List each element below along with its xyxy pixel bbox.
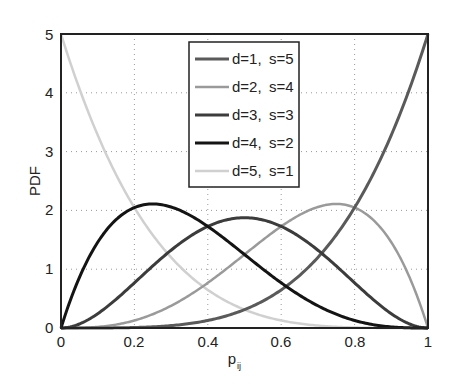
- y-tick-5: 5: [45, 26, 53, 43]
- x-axis-ticks: 0 0.2 0.4 0.6 0.8 1: [57, 333, 432, 350]
- curve-d-3-s-3: [61, 218, 428, 328]
- y-tick-3: 3: [45, 143, 53, 160]
- legend-label-s: s=5: [269, 50, 294, 67]
- x-tick-0.2: 0.2: [124, 333, 145, 350]
- legend-label-d: d=2,: [232, 78, 262, 95]
- legend-label-d: d=5,: [232, 162, 262, 179]
- y-tick-1: 1: [45, 260, 53, 277]
- x-tick-0.4: 0.4: [198, 333, 219, 350]
- legend-label-d: d=3,: [232, 106, 262, 123]
- legend-label-d: d=1,: [232, 50, 262, 67]
- x-tick-0.6: 0.6: [271, 333, 292, 350]
- x-axis-label-main: p: [228, 350, 236, 367]
- legend: d=1, s=5 d=2, s=4 d=3, s=3 d=4, s=2 d=5,…: [189, 42, 299, 187]
- y-axis-ticks: 0 1 2 3 4 5: [45, 26, 53, 336]
- x-tick-1: 1: [424, 333, 432, 350]
- x-axis-label: p ij: [228, 350, 241, 371]
- x-tick-0.8: 0.8: [345, 333, 366, 350]
- y-tick-0: 0: [45, 319, 53, 336]
- y-axis-label: PDF: [26, 166, 43, 196]
- y-tick-2: 2: [45, 201, 53, 218]
- legend-label-s: s=2: [269, 134, 294, 151]
- legend-label-d: d=4,: [232, 134, 262, 151]
- legend-label-s: s=4: [269, 78, 294, 95]
- legend-label-s: s=3: [269, 106, 294, 123]
- y-tick-4: 4: [45, 84, 53, 101]
- x-tick-0: 0: [57, 333, 65, 350]
- x-axis-label-subscript: ij: [237, 361, 241, 371]
- legend-label-s: s=1: [269, 162, 294, 179]
- pdf-chart: 0 1 2 3 4 5 0 0.2 0.4 0.6 0.8 1 PDF p ij…: [0, 0, 455, 388]
